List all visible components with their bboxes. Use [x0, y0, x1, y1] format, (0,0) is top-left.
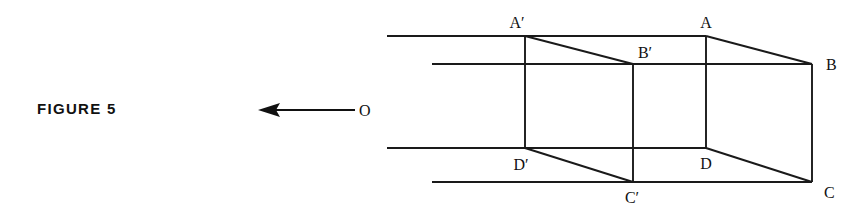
perspective-box-diagram: A′ A B′ B D′ D C′ C O [0, 0, 859, 210]
figure-container: FIGURE 5 A′ A B′ B D′ D C′ C O [0, 0, 859, 210]
vertex-label-d-prime: D′ [513, 156, 528, 173]
vertex-label-b: B [826, 56, 837, 73]
viewpoint-label-o: O [359, 102, 371, 119]
vertex-label-b-prime: B′ [638, 44, 652, 61]
edge-aprime-bprime [525, 36, 633, 64]
vertex-label-c-prime: C′ [625, 189, 639, 206]
edge-a-b [706, 36, 812, 64]
edge-cprime-dprime [525, 148, 633, 182]
vertex-label-d: D [700, 155, 712, 172]
edge-c-d [706, 148, 812, 182]
vertex-label-a: A [700, 14, 712, 31]
vertex-label-a-prime: A′ [509, 14, 524, 31]
vertex-label-c: C [824, 184, 835, 201]
